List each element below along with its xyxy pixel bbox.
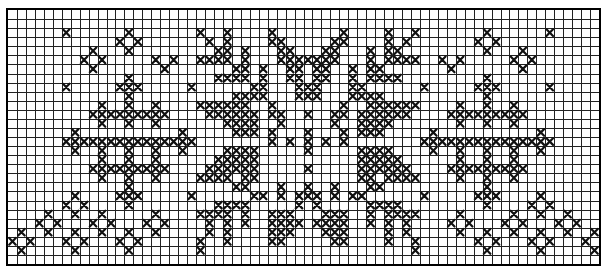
cross-stitch-icon (278, 120, 285, 127)
cross-stitch-icon (332, 184, 339, 191)
cross-stitch-icon (126, 84, 133, 91)
cross-stitch-icon (358, 193, 365, 200)
cross-stitch-icon (126, 120, 133, 127)
cross-stitch-icon (251, 174, 258, 181)
cross-stitch-icon (90, 111, 97, 118)
cross-stitch-icon (484, 247, 491, 254)
cross-stitch-icon (126, 102, 133, 109)
cross-stitch-icon (242, 93, 249, 100)
cross-stitch-icon (251, 120, 258, 127)
cross-stitch-icon (287, 220, 294, 227)
cross-stitch-icon (493, 238, 500, 245)
cross-stitch-icon (367, 47, 374, 54)
cross-stitch-icon (296, 220, 303, 227)
cross-stitch-icon (511, 156, 518, 163)
cross-stitch-icon (332, 238, 339, 245)
cross-stitch-icon (170, 57, 177, 64)
cross-stitch-icon (466, 138, 473, 145)
cross-stitch-icon (520, 165, 527, 172)
pattern-grid (8, 10, 599, 264)
cross-stitch-icon (385, 38, 392, 45)
cross-stitch-icon (367, 75, 374, 82)
cross-stitch-icon (296, 84, 303, 91)
cross-stitch-icon (305, 147, 312, 154)
cross-stitch-icon (457, 229, 464, 236)
cross-stitch-icon (242, 147, 249, 154)
cross-stitch-icon (314, 75, 321, 82)
cross-stitch-icon (484, 84, 491, 91)
cross-stitch-icon (72, 247, 79, 254)
cross-stitch-icon (287, 229, 294, 236)
cross-stitch-icon (117, 165, 124, 172)
cross-stitch-icon (538, 229, 545, 236)
cross-stitch-icon (305, 111, 312, 118)
cross-stitch-icon (296, 57, 303, 64)
cross-stitch-icon (215, 156, 222, 163)
cross-stitch-icon (99, 120, 106, 127)
cross-stitch-icon (332, 120, 339, 127)
cross-stitch-icon (394, 211, 401, 218)
cross-stitch-icon (278, 38, 285, 45)
cross-stitch-icon (323, 75, 330, 82)
cross-stitch-icon (564, 229, 571, 236)
cross-stitch-icon (63, 138, 70, 145)
cross-stitch-icon (385, 229, 392, 236)
cross-stitch-icon (457, 120, 464, 127)
cross-stitch-icon (341, 229, 348, 236)
cross-stitch-icon (287, 138, 294, 145)
cross-stitch-icon (367, 57, 374, 64)
cross-stitch-icon (188, 138, 195, 145)
cross-stitch-icon (466, 165, 473, 172)
cross-stitch-icon (520, 47, 527, 54)
cross-stitch-icon (457, 156, 464, 163)
cross-stitch-icon (99, 102, 106, 109)
cross-stitch-icon (332, 47, 339, 54)
cross-stitch-icon (367, 202, 374, 209)
cross-stitch-icon (394, 202, 401, 209)
cross-stitch-icon (269, 220, 276, 227)
cross-stitch-icon (188, 84, 195, 91)
cross-stitch-icon (161, 66, 168, 73)
cross-stitch-icon (341, 102, 348, 109)
cross-stitch-icon (475, 111, 482, 118)
cross-stitch-icon (376, 129, 383, 136)
cross-stitch-icon (394, 111, 401, 118)
cross-stitch-icon (63, 29, 70, 36)
cross-stitch-icon (511, 120, 518, 127)
cross-stitch-icon (439, 138, 446, 145)
cross-stitch-icon (36, 220, 43, 227)
cross-stitch-icon (529, 57, 536, 64)
cross-stitch-icon (323, 138, 330, 145)
cross-stitch-icon (484, 193, 491, 200)
cross-stitch-icon (349, 75, 356, 82)
cross-stitch-icon (403, 38, 410, 45)
cross-stitch-icon (511, 211, 518, 218)
cross-stitch-icon (224, 102, 231, 109)
cross-stitch-icon (233, 93, 240, 100)
cross-stitch-icon (349, 93, 356, 100)
cross-stitch-icon (278, 111, 285, 118)
cross-stitch-icon (81, 202, 88, 209)
cross-stitch-icon (412, 174, 419, 181)
cross-stitch-icon (305, 84, 312, 91)
cross-stitch-icon (161, 165, 168, 172)
cross-stitch-icon (63, 84, 70, 91)
cross-stitch-icon (484, 229, 491, 236)
cross-stitch-icon (484, 47, 491, 54)
cross-stitch-icon (484, 202, 491, 209)
cross-stitch-icon (287, 66, 294, 73)
cross-stitch-icon (484, 138, 491, 145)
cross-stitch-icon (529, 202, 536, 209)
cross-stitch-icon (126, 111, 133, 118)
cross-stitch-icon (269, 111, 276, 118)
cross-stitch-icon (152, 111, 159, 118)
cross-stitch-icon (126, 75, 133, 82)
cross-stitch-icon (412, 29, 419, 36)
cross-stitch-icon (457, 102, 464, 109)
cross-stitch-icon (358, 111, 365, 118)
cross-stitch-icon (278, 184, 285, 191)
cross-stitch-icon (135, 238, 142, 245)
cross-stitch-icon (152, 138, 159, 145)
cross-stitch-icon (126, 29, 133, 36)
cross-stitch-icon (367, 184, 374, 191)
